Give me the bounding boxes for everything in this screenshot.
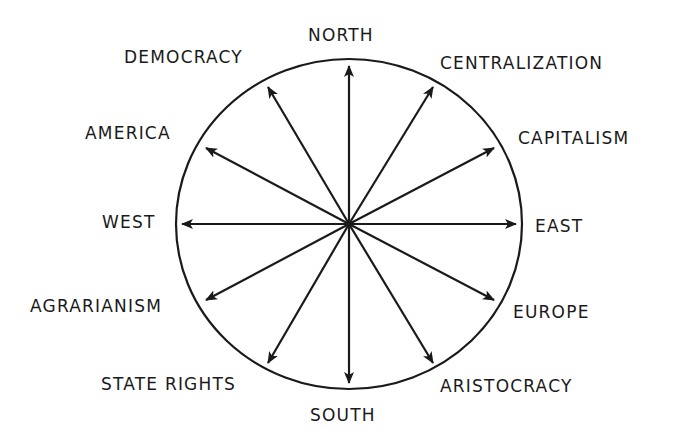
label-east: EAST bbox=[535, 218, 583, 235]
arrow-capitalism bbox=[349, 148, 494, 224]
label-centralization: CENTRALIZATION bbox=[440, 55, 603, 72]
label-aristocracy: ARISTOCRACY bbox=[440, 378, 573, 395]
label-state-rights: STATE RIGHTS bbox=[101, 376, 236, 393]
label-agrarianism: AGRARIANISM bbox=[30, 298, 162, 315]
label-south: SOUTH bbox=[310, 407, 376, 424]
arrow-centralization bbox=[349, 87, 433, 224]
label-europe: EUROPE bbox=[513, 304, 590, 321]
label-north: NORTH bbox=[308, 27, 374, 44]
label-democracy: DEMOCRACY bbox=[124, 49, 243, 66]
label-capitalism: CAPITALISM bbox=[518, 130, 629, 147]
arrow-group bbox=[182, 66, 516, 383]
label-america: AMERICA bbox=[85, 125, 171, 142]
label-west: WEST bbox=[102, 214, 156, 231]
